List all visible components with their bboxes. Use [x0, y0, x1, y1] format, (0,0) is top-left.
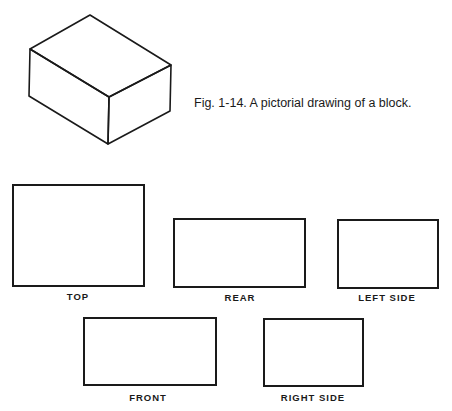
view-rear-rect — [173, 218, 306, 288]
view-rear-label: REAR — [225, 292, 256, 303]
view-top-rect — [12, 184, 145, 287]
block-left-face — [29, 49, 109, 144]
view-top-label: TOP — [67, 291, 89, 302]
view-right-side-label: RIGHT SIDE — [281, 392, 345, 403]
block-right-face — [108, 65, 171, 144]
view-front-rect — [83, 317, 217, 386]
view-front-label: FRONT — [129, 392, 167, 403]
view-left-side-rect — [337, 219, 439, 289]
block-top-face — [30, 15, 171, 97]
view-left-side-label: LEFT SIDE — [358, 292, 416, 303]
view-right-side-rect — [263, 318, 364, 387]
figure-caption: Fig. 1-14. A pictorial drawing of a bloc… — [194, 96, 411, 110]
